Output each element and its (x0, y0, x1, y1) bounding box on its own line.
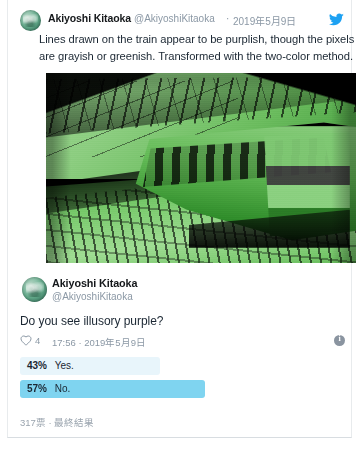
poll: 43%Yes. 57%No. (20, 357, 345, 403)
tweet-poll-meta-row: 4 17:56 · 2019年5月9日 (20, 334, 345, 350)
avatar-poll[interactable] (22, 277, 47, 302)
screenshot-root: Akiyoshi Kitaoka @AkiyoshiKitaoka · 2019… (0, 0, 360, 450)
info-icon[interactable] (334, 335, 345, 346)
tweet-poll-question: Do you see illusory purple? (20, 314, 163, 328)
tweet-poll-timestamp: 17:56 · 2019年5月9日 (52, 335, 146, 349)
like-count: 4 (35, 335, 40, 346)
tweet-main-display-name[interactable]: Akiyoshi Kitaoka (48, 12, 131, 24)
tweet-main-body: Lines drawn on the train appear to be pu… (39, 31, 355, 65)
poll-footer: 317票 · 最終結果 (20, 415, 94, 429)
tweet-main-date[interactable]: 2019年5月9日 (233, 13, 296, 28)
poll-option-no[interactable]: 57%No. (20, 380, 345, 398)
tweet-poll-handle[interactable]: @AkiyoshiKitaoka (52, 291, 133, 302)
heart-icon[interactable] (20, 335, 32, 347)
poll-label-no: 57%No. (20, 380, 70, 398)
twitter-bird-icon[interactable] (328, 12, 345, 27)
tweet-poll-display-name[interactable]: Akiyoshi Kitaoka (52, 277, 137, 289)
avatar-main[interactable] (20, 10, 41, 31)
tweet-card: Akiyoshi Kitaoka @AkiyoshiKitaoka · 2019… (7, 0, 352, 438)
poll-choice-no: No. (55, 383, 71, 394)
poll-choice-yes: Yes. (55, 360, 74, 371)
tweet-main-handle[interactable]: @AkiyoshiKitaoka (134, 13, 215, 24)
media-layer-grain (46, 73, 356, 263)
tweet-main-separator: · (226, 13, 229, 24)
poll-percent-yes: 43% (27, 360, 47, 371)
tweet-main-header: Akiyoshi Kitaoka @AkiyoshiKitaoka · 2019… (20, 9, 345, 31)
train-photo-green-duotone[interactable] (46, 73, 356, 263)
poll-option-yes[interactable]: 43%Yes. (20, 357, 345, 375)
poll-label-yes: 43%Yes. (20, 357, 74, 375)
poll-percent-no: 57% (27, 383, 47, 394)
